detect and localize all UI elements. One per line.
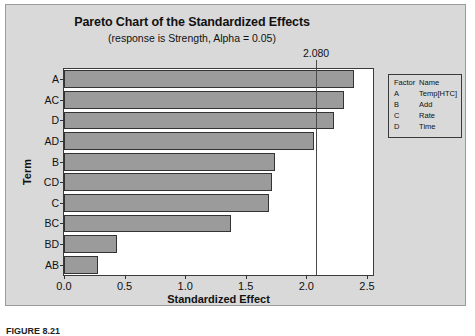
y-tick-mark — [60, 79, 64, 80]
legend-header-row: FactorName — [394, 78, 457, 89]
bar-row: AB — [64, 256, 373, 274]
y-tick-label-D: D — [51, 114, 59, 126]
y-axis-title: Term — [20, 68, 34, 276]
chart-panel: Pareto Chart of the Standardized Effects… — [5, 4, 466, 306]
bar-row: C — [64, 194, 373, 212]
y-tick-mark — [60, 120, 64, 121]
y-tick-mark — [60, 100, 64, 101]
legend-row: BAdd — [394, 100, 457, 111]
legend-factor-D: D — [394, 122, 419, 133]
x-tick-label-1.0: 1.0 — [178, 280, 193, 292]
bar-row: BD — [64, 235, 373, 253]
legend-row: ATemp[HTC] — [394, 89, 457, 100]
legend-factor-C: C — [394, 111, 419, 122]
bar-BC — [64, 215, 231, 233]
y-tick-mark — [60, 182, 64, 183]
x-tick-mark — [64, 275, 65, 279]
y-tick-mark — [60, 244, 64, 245]
x-tick-mark — [306, 275, 307, 279]
y-tick-label-C: C — [51, 197, 59, 209]
bar-row: D — [64, 112, 373, 130]
legend-row: CRate — [394, 111, 457, 122]
bar-A — [64, 70, 354, 88]
bar-row: AD — [64, 132, 373, 150]
chart-subtitle: (response is Strength, Alpha = 0.05) — [6, 32, 378, 44]
x-tick-label-1.5: 1.5 — [238, 280, 253, 292]
y-tick-label-AB: AB — [45, 259, 59, 271]
bar-row: A — [64, 70, 373, 88]
y-tick-label-CD: CD — [44, 176, 59, 188]
legend-name-A: Temp[HTC] — [419, 89, 457, 100]
bar-AB — [64, 256, 98, 274]
bar-BD — [64, 235, 117, 253]
y-tick-label-A: A — [52, 73, 59, 85]
x-tick-label-0.5: 0.5 — [117, 280, 132, 292]
figure-container: Pareto Chart of the Standardized Effects… — [0, 0, 475, 336]
legend-header-factor: Factor — [394, 78, 419, 89]
factor-legend: FactorNameATemp[HTC]BAddCRateDTime — [388, 74, 462, 138]
legend-row: DTime — [394, 122, 457, 133]
legend-name-B: Add — [419, 100, 457, 111]
x-tick-label-2.0: 2.0 — [299, 280, 314, 292]
x-tick-mark — [367, 275, 368, 279]
figure-caption: FIGURE 8.21 — [6, 326, 60, 336]
x-tick-mark — [185, 275, 186, 279]
bar-row: BC — [64, 215, 373, 233]
x-axis-title: Standardized Effect — [63, 293, 374, 305]
x-tick-mark — [246, 275, 247, 279]
bar-B — [64, 153, 275, 171]
y-tick-mark — [60, 223, 64, 224]
y-tick-mark — [60, 162, 64, 163]
x-tick-label-2.5: 2.5 — [359, 280, 374, 292]
x-tick-mark — [125, 275, 126, 279]
legend-header-name: Name — [419, 78, 457, 89]
y-tick-label-AD: AD — [44, 135, 59, 147]
y-tick-mark — [60, 203, 64, 204]
bar-CD — [64, 173, 272, 191]
legend-factor-A: A — [394, 89, 419, 100]
legend-factor-B: B — [394, 100, 419, 111]
bar-row: AC — [64, 91, 373, 109]
y-tick-label-B: B — [52, 156, 59, 168]
y-tick-mark — [60, 265, 64, 266]
legend-name-C: Rate — [419, 111, 457, 122]
bar-row: B — [64, 153, 373, 171]
chart-title: Pareto Chart of the Standardized Effects — [6, 15, 378, 29]
bar-AC — [64, 91, 344, 109]
bar-C — [64, 194, 269, 212]
plot-inner: AACDADBCDCBCBDAB0.00.51.01.52.02.52.080 — [64, 69, 373, 275]
y-tick-mark — [60, 141, 64, 142]
x-tick-label-0.0: 0.0 — [56, 280, 71, 292]
reference-line-label: 2.080 — [303, 47, 329, 59]
y-axis-title-text: Term — [21, 159, 33, 185]
y-tick-label-BD: BD — [44, 238, 59, 250]
legend-name-D: Time — [419, 122, 457, 133]
legend-table: FactorNameATemp[HTC]BAddCRateDTime — [394, 78, 457, 133]
y-tick-label-AC: AC — [44, 94, 59, 106]
y-tick-label-BC: BC — [44, 217, 59, 229]
reference-line — [316, 60, 317, 275]
bar-row: CD — [64, 173, 373, 191]
bar-D — [64, 112, 334, 130]
bar-AD — [64, 132, 314, 150]
plot-area: AACDADBCDCBCBDAB0.00.51.01.52.02.52.080 — [63, 68, 374, 276]
